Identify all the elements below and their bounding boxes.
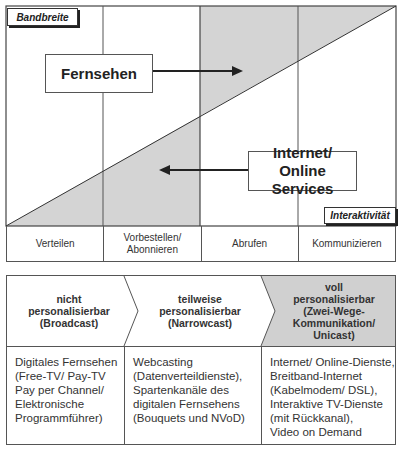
table-body-row: Digitales Fernsehen (Free-TV/ Pay-TV Pay… — [7, 346, 395, 445]
internet-box: Internet/ Online Services — [248, 151, 357, 191]
column-vorbestellen: Vorbestellen/ Abonnieren — [104, 226, 201, 261]
interactivity-columns-row: Verteilen Vorbestellen/ Abonnieren Abruf… — [6, 226, 396, 262]
column-kommunizieren: Kommunizieren — [299, 226, 395, 261]
cell-narrowcast: Webcasting (Datenverteildienste), Sparte… — [125, 347, 261, 445]
table-header-row: nicht personalisierbar (Broadcast) teilw… — [7, 276, 395, 346]
header-narrowcast: teilweise personalisierbar (Narrowcast) — [135, 276, 265, 346]
internet-label-line2: Online Services — [249, 162, 356, 198]
header-broadcast: nicht personalisierbar (Broadcast) — [7, 276, 131, 346]
fernsehen-label: Fernsehen — [61, 65, 137, 83]
header-unicast: voll personalisierbar (Zwei-Wege- Kommun… — [273, 276, 395, 346]
y-axis-label: Bandbreite — [7, 8, 78, 26]
personalization-table: nicht personalisierbar (Broadcast) teilw… — [6, 275, 396, 445]
internet-label-line1: Internet/ — [273, 144, 332, 162]
column-verteilen: Verteilen — [7, 226, 104, 261]
x-axis-label: Interaktivität — [324, 207, 396, 224]
cell-broadcast: Digitales Fernsehen (Free-TV/ Pay-TV Pay… — [7, 347, 124, 445]
fernsehen-box: Fernsehen — [45, 54, 153, 93]
cell-unicast: Internet/ Online-Dienste, Breitband-Inte… — [262, 347, 395, 445]
column-abrufen: Abrufen — [202, 226, 299, 261]
